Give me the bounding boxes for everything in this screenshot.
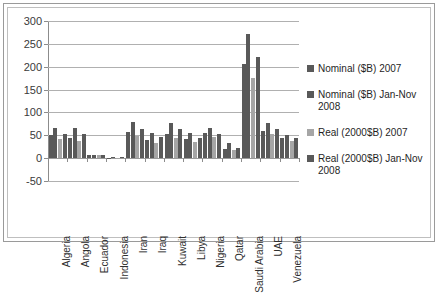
bar <box>126 132 130 158</box>
bar <box>285 135 289 158</box>
y-axis-tick-labels: -50050100150200250300 <box>14 21 42 181</box>
bar <box>154 143 158 158</box>
legend-item[interactable]: Nominal ($B) 2007 <box>307 63 435 75</box>
bar <box>120 157 124 158</box>
legend-swatch-icon <box>307 129 314 136</box>
bar <box>87 155 91 158</box>
bar <box>290 141 294 158</box>
x-axis-label: Angola <box>81 236 91 267</box>
bar <box>256 57 260 158</box>
y-axis-tick-label: 0 <box>36 153 42 164</box>
bar-group <box>183 21 202 181</box>
bar-group <box>260 21 279 181</box>
y-axis-tick-label: -50 <box>26 176 42 187</box>
y-axis-tick-label: 300 <box>24 16 42 27</box>
bar-group <box>280 21 299 181</box>
bar-group <box>125 21 144 181</box>
x-axis-label: Qatar <box>235 236 245 261</box>
chart-frame: -50050100150200250300 AlgeriaAngolaEcuad… <box>3 3 435 242</box>
bar <box>270 134 274 158</box>
bar <box>63 134 67 158</box>
bar <box>73 128 77 158</box>
bar <box>92 155 96 159</box>
chart-legend: Nominal ($B) 2007Nominal ($B) Jan-Nov 20… <box>307 63 435 191</box>
bar-group <box>87 21 106 181</box>
bar <box>159 137 163 158</box>
bar <box>111 157 115 158</box>
chart-inner-border: -50050100150200250300 AlgeriaAngolaEcuad… <box>7 7 431 238</box>
x-axis-label: Indonesia <box>120 236 130 279</box>
bar <box>101 155 105 158</box>
legend-swatch-icon <box>307 155 314 162</box>
x-axis-label: Iran <box>139 236 149 253</box>
bar <box>251 78 255 158</box>
bar-group <box>106 21 125 181</box>
legend-item[interactable]: Real (2000$B) 2007 <box>307 127 435 139</box>
x-axis-label: UAE <box>274 236 284 257</box>
y-axis-tick-label: 150 <box>24 85 42 96</box>
x-axis-label: Libya <box>197 236 207 260</box>
bar <box>97 155 101 158</box>
legend-item[interactable]: Nominal ($B) Jan-Nov 2008 <box>307 89 435 113</box>
bar <box>223 149 227 159</box>
bar <box>232 150 236 158</box>
bar <box>208 128 212 158</box>
bar <box>266 123 270 159</box>
bar <box>188 133 192 158</box>
bar <box>135 136 139 158</box>
x-axis-tick <box>48 158 49 162</box>
bar <box>246 34 250 158</box>
bar-group <box>48 21 67 181</box>
x-axis-label: Venezuela <box>293 236 303 283</box>
y-axis-tick-label: 50 <box>30 130 42 141</box>
x-axis-label: Kuwait <box>178 236 188 266</box>
bar <box>193 142 197 158</box>
bar <box>169 123 173 158</box>
y-axis-tick-label: 250 <box>24 39 42 50</box>
bar <box>198 138 202 158</box>
bar <box>116 158 120 159</box>
plot-area <box>48 21 299 181</box>
x-axis-label: Iraq <box>158 236 168 253</box>
bar-group <box>222 21 241 181</box>
legend-label: Nominal ($B) 2007 <box>318 63 435 75</box>
bar <box>107 158 111 159</box>
bar <box>184 139 188 159</box>
bar <box>131 122 135 158</box>
legend-swatch-icon <box>307 65 314 72</box>
x-axis-label: Nigeria <box>216 236 226 268</box>
bar <box>203 133 207 158</box>
x-axis-tick <box>299 158 300 162</box>
bar-group <box>241 21 260 181</box>
y-axis-tick-label: 200 <box>24 62 42 73</box>
legend-swatch-icon <box>307 91 314 98</box>
bar <box>178 129 182 158</box>
bar <box>212 137 216 158</box>
bar <box>280 138 284 159</box>
bar <box>53 128 57 159</box>
bar-group <box>202 21 221 181</box>
bar <box>165 134 169 158</box>
legend-item[interactable]: Real (2000$B) Jan-Nov 2008 <box>307 153 435 177</box>
x-axis-label: Algeria <box>62 236 72 267</box>
bar <box>58 139 62 158</box>
bar <box>242 64 246 158</box>
bar <box>217 134 221 158</box>
bar <box>174 138 178 159</box>
bar <box>150 133 154 158</box>
bar <box>294 138 298 159</box>
bar <box>77 141 81 158</box>
bar <box>236 148 240 159</box>
legend-label: Real (2000$B) Jan-Nov 2008 <box>318 153 435 177</box>
y-axis-tick-label: 100 <box>24 107 42 118</box>
bar <box>140 129 144 158</box>
x-axis-label: Ecuador <box>100 236 110 273</box>
legend-label: Nominal ($B) Jan-Nov 2008 <box>318 89 435 113</box>
bar <box>82 134 86 158</box>
bar-group <box>164 21 183 181</box>
legend-label: Real (2000$B) 2007 <box>318 127 435 139</box>
x-axis-label: Saudi Arabia <box>255 236 265 293</box>
bar-group <box>145 21 164 181</box>
bar <box>68 138 72 158</box>
bar <box>49 135 53 158</box>
